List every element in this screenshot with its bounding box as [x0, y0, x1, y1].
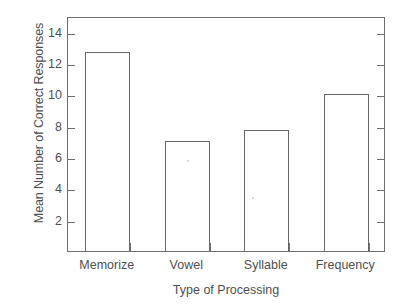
- y-tick-mark-right: [377, 190, 384, 191]
- y-tick-mark-left: [68, 65, 75, 66]
- x-tick-mark: [130, 243, 131, 251]
- x-axis-title: Type of Processing: [67, 283, 385, 297]
- x-tick-mark: [244, 243, 245, 251]
- y-tick-label: 6: [20, 151, 62, 165]
- y-tick-mark-left: [68, 190, 75, 191]
- y-tick-mark-right: [377, 65, 384, 66]
- x-tick-mark: [85, 243, 86, 251]
- y-tick-mark-right: [377, 159, 384, 160]
- x-tick-label-frequency: Frequency: [316, 258, 375, 272]
- y-tick-label: 8: [20, 120, 62, 134]
- y-tick-mark-left: [68, 159, 75, 160]
- y-tick-label: 12: [20, 57, 62, 71]
- bar-memorize: [85, 52, 130, 251]
- bar-vowel: [165, 141, 210, 251]
- y-tick-mark-right: [377, 96, 384, 97]
- y-tick-mark-right: [377, 128, 384, 129]
- y-tick-mark-right: [377, 34, 384, 35]
- y-tick-label: 4: [20, 182, 62, 196]
- x-tick-label-syllable: Syllable: [244, 258, 288, 272]
- x-tick-label-vowel: Vowel: [170, 258, 203, 272]
- x-tick-mark: [210, 243, 211, 251]
- x-tick-label-memorize: Memorize: [79, 258, 134, 272]
- y-tick-mark-left: [68, 128, 75, 129]
- y-tick-label: 10: [20, 88, 62, 102]
- y-tick-mark-left: [68, 34, 75, 35]
- y-tick-label: 2: [20, 214, 62, 228]
- bar-frequency: [324, 94, 369, 251]
- bar-syllable: [244, 130, 289, 251]
- bar-chart-figure: Mean Number of Correct Responses 2468101…: [0, 0, 404, 307]
- x-tick-mark: [289, 243, 290, 251]
- y-tick-mark-right: [377, 222, 384, 223]
- x-tick-mark: [369, 243, 370, 251]
- y-tick-label-group: 2468101214: [20, 0, 62, 307]
- plot-area: [67, 17, 385, 252]
- x-tick-mark: [324, 243, 325, 251]
- x-tick-mark: [165, 243, 166, 251]
- y-tick-mark-left: [68, 96, 75, 97]
- y-tick-label: 14: [20, 26, 62, 40]
- y-tick-mark-left: [68, 222, 75, 223]
